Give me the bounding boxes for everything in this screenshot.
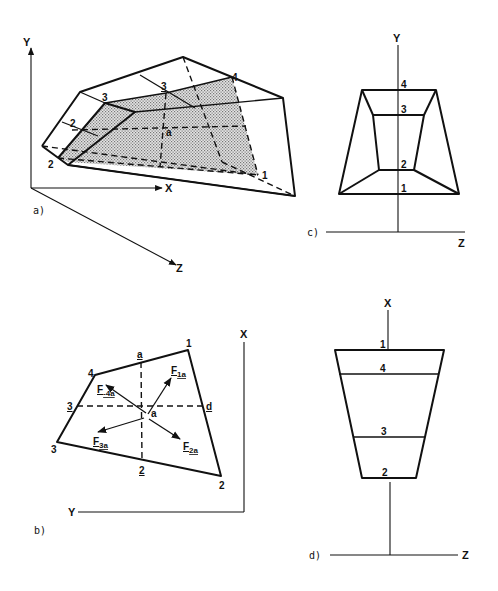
y-axis-label: Y: [23, 36, 31, 48]
level-label: 1: [401, 183, 407, 194]
x-axis-label: X: [240, 328, 248, 340]
level-label: 1: [380, 339, 386, 350]
z-axis-label: Z: [462, 549, 469, 561]
node-label: 2: [70, 118, 76, 129]
z-axis-label: Z: [176, 262, 183, 274]
corner-edge: [362, 90, 373, 115]
corner-label: 1: [186, 338, 192, 349]
level-label: 3: [381, 426, 387, 437]
force-label-f4a: F-4a: [97, 384, 115, 398]
panel-d: X Z d) 1 4 3 2: [309, 297, 469, 561]
outer-trapezoid: [339, 90, 459, 194]
force-vector-f2a: [149, 419, 180, 439]
force-label-f2a: F2a: [183, 441, 199, 455]
z-axis-label: Z: [458, 237, 465, 249]
midline: [141, 362, 142, 460]
y-axis-label: Y: [393, 32, 401, 44]
z-axis: [31, 188, 176, 265]
corner-label: 2: [219, 480, 225, 491]
panel-b: X Y b) 1 2 3 4 a 2 3 d a F1a F2a F3a F-4…: [34, 328, 248, 536]
force-label-f1a: F1a: [171, 365, 187, 379]
corner-edge: [339, 170, 379, 194]
node-label: 4: [232, 72, 238, 83]
midpoint-label: a: [137, 349, 143, 360]
panel-a: Y X Z a) 2 2 3 3 4 a 1: [23, 36, 295, 274]
level-label: 2: [401, 159, 407, 170]
level-label: 3: [401, 104, 407, 115]
level-label: 4: [401, 79, 407, 90]
caption-a: a): [33, 205, 45, 216]
y-axis-label: Y: [68, 506, 76, 518]
finite-element-diagram: Y X Z a) 2 2 3 3 4 a 1 Y Z c): [0, 0, 498, 591]
node-label: 2: [48, 159, 54, 170]
midpoint-label: 2: [139, 465, 145, 476]
level-label: 4: [380, 363, 386, 374]
corner-label: 4: [88, 368, 94, 379]
node-label: 1: [262, 170, 268, 181]
trapezoid: [335, 350, 444, 478]
panel-c: Y Z c) 4 3 2 1: [307, 32, 465, 249]
midpoint-label: d: [206, 401, 212, 412]
x-axis-label: X: [384, 297, 392, 309]
level-label: 2: [382, 467, 388, 478]
center-label: a: [151, 408, 157, 419]
midpoint-label: 3: [67, 401, 73, 412]
force-vector-f3a: [98, 418, 144, 432]
x-axis-label: X: [165, 182, 173, 194]
corner-label: 3: [51, 444, 57, 455]
caption-c: c): [307, 227, 319, 238]
node-label: 3: [102, 92, 108, 103]
corner-edge: [414, 170, 459, 194]
node-label: 3: [161, 81, 167, 92]
center-label: a: [166, 127, 172, 138]
element-quadrilateral: [57, 350, 221, 476]
caption-d: d): [309, 550, 321, 561]
caption-b: b): [34, 525, 46, 536]
force-label-f3a: F3a: [93, 436, 109, 450]
corner-edge: [424, 90, 436, 115]
